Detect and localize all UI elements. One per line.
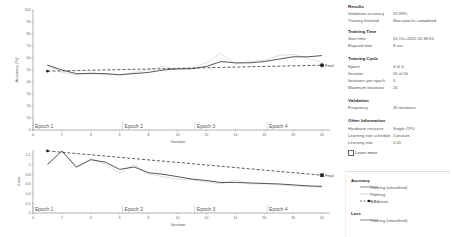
y-tick-label: 0 (29, 128, 31, 132)
loss-x-ticks: 02468101214161820 (32, 213, 324, 220)
x-tick-label: 12 (204, 133, 208, 137)
loss-y-ticks: 00.20.40.60.811.2 (26, 153, 34, 215)
y-tick-label: 0.6 (26, 182, 31, 186)
y-tick-label: 50 (27, 68, 31, 72)
y-tick-label: 10 (27, 116, 31, 120)
epoch-value: 4 of 4 (393, 64, 403, 69)
results-title: Results (348, 4, 364, 9)
loss-final-marker (320, 173, 324, 177)
legend-accuracy-smoothed: Training (smoothed) (370, 185, 407, 190)
accuracy-final-label: Final (325, 63, 334, 68)
x-tick-label: 12 (204, 216, 208, 220)
accuracy-final-marker (320, 63, 324, 67)
training-finished-value: Max epochs completed (393, 18, 436, 23)
start-time-label: Start time (348, 36, 366, 41)
epoch-label: Epoch 4 (269, 206, 288, 212)
iteration-label: Iteration (348, 71, 363, 76)
accuracy-training-line (47, 53, 322, 75)
maximum-iterations-label: Maximum iterations (348, 85, 384, 90)
x-tick-label: 8 (148, 216, 150, 220)
accuracy-y-ticks: 0102030405060708090100 (25, 8, 34, 132)
hardware-resource-value: Single CPU (393, 126, 415, 131)
y-tick-label: 0.2 (26, 202, 31, 206)
x-tick-label: 4 (90, 216, 92, 220)
y-tick-label: 70 (27, 44, 31, 48)
x-tick-label: 20 (320, 133, 324, 137)
y-tick-label: 0.8 (26, 173, 31, 177)
y-tick-label: 100 (25, 8, 31, 12)
loss-validation-start-marker (46, 150, 49, 153)
training-cycle-title: Training Cycle (348, 56, 378, 61)
accuracy-smoothed-line (47, 56, 322, 75)
accuracy-x-label: Iteration (171, 139, 185, 144)
accuracy-validation-start-marker (46, 70, 49, 73)
accuracy-x-ticks: 02468101214161820 (32, 130, 324, 137)
x-tick-label: 18 (291, 133, 295, 137)
x-tick-label: 4 (90, 133, 92, 137)
maximum-iterations-value: 20 (393, 85, 398, 90)
learning-rate-schedule-label: Learning rate schedule (348, 133, 391, 138)
legend-accuracy-training: Training (370, 192, 385, 197)
elapsed-time-value: 8 sec (393, 43, 403, 48)
x-tick-label: 16 (262, 133, 266, 137)
x-tick-label: 2 (61, 216, 63, 220)
training-progress-charts: 0102030405060708090100 02468101214161820… (0, 0, 336, 237)
accuracy-y-label: Accuracy (%) (14, 57, 19, 83)
other-information-title: Other Information (348, 118, 385, 123)
loss-y-label: Loss (16, 177, 21, 186)
start-time-value: 01-Oct-2022 02:38:55 (393, 36, 434, 41)
y-tick-label: 20 (27, 104, 31, 108)
epoch-label: Epoch 3 (197, 123, 216, 129)
legend-loss-smoothed: Training (smoothed) (370, 218, 407, 223)
y-tick-label: 30 (27, 92, 31, 96)
x-tick-label: 2 (61, 133, 63, 137)
iterations-per-epoch-value: 5 (393, 78, 395, 83)
iterations-per-epoch-label: Iterations per epoch (348, 78, 385, 83)
legend: Accuracy Training (smoothed) Training Va… (345, 171, 450, 237)
y-tick-label: 90 (27, 20, 31, 24)
x-tick-label: 14 (233, 133, 237, 137)
iteration-value: 20 of 20 (393, 71, 408, 76)
epoch-label: Epoch 1 (35, 206, 54, 212)
y-tick-label: 1.2 (26, 153, 31, 157)
x-tick-label: 6 (119, 133, 121, 137)
hardware-resource-label: Hardware resource (348, 126, 384, 131)
charts-canvas: 0102030405060708090100 02468101214161820… (0, 0, 336, 237)
info-icon (348, 150, 354, 156)
y-tick-label: 60 (27, 56, 31, 60)
x-tick-label: 14 (233, 216, 237, 220)
frequency-label: Frequency (348, 105, 368, 110)
x-tick-label: 16 (262, 216, 266, 220)
x-tick-label: 18 (291, 216, 295, 220)
x-tick-label: 0 (32, 216, 34, 220)
learn-more-label: Learn more (355, 150, 377, 155)
learning-rate-value: 0.01 (393, 140, 401, 145)
validation-title: Validation (348, 98, 369, 103)
accuracy-validation-line (47, 65, 322, 71)
epoch-label: Epoch 4 (269, 123, 288, 129)
training-finished-label: Training finished (348, 18, 379, 23)
loss-smoothed-line (47, 151, 322, 186)
accuracy-epoch-markers: Epoch 1Epoch 2Epoch 3Epoch 4 (33, 122, 288, 130)
loss-x-label: Iteration (171, 222, 185, 227)
legend-accuracy-validation: Validation (370, 199, 388, 204)
validation-accuracy-value: 53.99% (393, 11, 407, 16)
frequency-value: 30 iterations (393, 105, 416, 110)
x-tick-label: 20 (320, 216, 324, 220)
y-tick-label: 0.4 (26, 192, 31, 196)
epoch-label: Epoch 2 (125, 123, 144, 129)
y-tick-label: 40 (27, 80, 31, 84)
epoch-label: Epoch 2 (125, 206, 144, 212)
x-tick-label: 10 (176, 216, 180, 220)
loss-training-line (47, 151, 322, 187)
y-tick-label: 80 (27, 32, 31, 36)
loss-plot: 00.20.40.60.811.2 02468101214161820 Loss… (16, 150, 334, 227)
learn-more-link[interactable]: Learn more (348, 150, 377, 156)
x-tick-label: 6 (119, 216, 121, 220)
x-tick-label: 0 (32, 133, 34, 137)
loss-epoch-markers: Epoch 1Epoch 2Epoch 3Epoch 4 (33, 205, 288, 213)
legend-accuracy-title: Accuracy (351, 178, 370, 183)
epoch-label: Epoch 1 (35, 123, 54, 129)
learning-rate-schedule-value: Constant (393, 133, 410, 138)
legend-loss-title: Loss (351, 211, 361, 216)
